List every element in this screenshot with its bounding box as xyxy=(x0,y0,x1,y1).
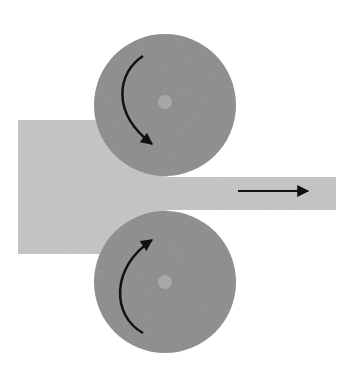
bottom-roller-hub xyxy=(158,275,172,289)
rolling-mill-diagram xyxy=(0,0,355,369)
top-roller xyxy=(94,34,236,176)
bottom-roller xyxy=(94,211,236,353)
top-roller-hub xyxy=(158,95,172,109)
